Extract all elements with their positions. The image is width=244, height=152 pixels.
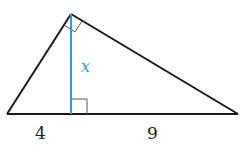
right-segment-label: 9 xyxy=(147,123,158,143)
right-leg xyxy=(71,14,238,114)
altitude-label: x xyxy=(81,57,90,76)
apex-right-angle-marker xyxy=(64,21,82,32)
foot-right-angle-marker xyxy=(71,99,87,114)
left-leg xyxy=(7,14,71,114)
left-segment-label: 4 xyxy=(35,123,46,143)
triangle-diagram: x 4 9 xyxy=(0,0,244,152)
